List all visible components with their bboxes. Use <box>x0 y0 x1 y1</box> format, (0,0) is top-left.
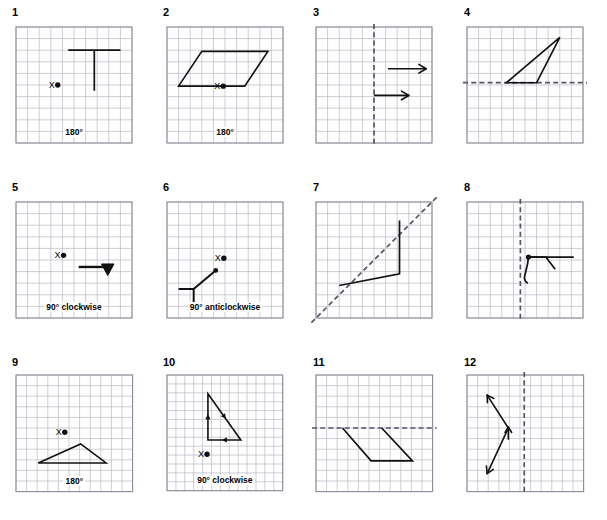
centre-of-rotation-label: X <box>49 81 55 90</box>
panel-number: 7 <box>313 181 319 193</box>
transformation-caption: 90° clockwise <box>195 475 254 485</box>
panel-number: 9 <box>12 356 18 368</box>
grid-lines <box>16 27 132 143</box>
centre-of-rotation-label: X <box>215 254 221 263</box>
grid-11 <box>316 375 433 492</box>
grid-6 <box>167 202 283 318</box>
worksheet-sheet: 1X180°2X180°345X90° clockwise6X90° antic… <box>0 0 607 520</box>
grid-lines <box>16 202 132 318</box>
grid-7 <box>316 202 432 318</box>
panel-number: 12 <box>464 356 476 368</box>
grid-10 <box>167 375 283 491</box>
transformation-caption: 180° <box>214 127 236 137</box>
transformation-caption: 180° <box>64 476 86 486</box>
transformation-caption: 90° clockwise <box>44 302 103 312</box>
grid-5 <box>16 202 132 318</box>
panel-number: 11 <box>313 356 325 368</box>
panel-number: 1 <box>12 6 18 18</box>
grid-8 <box>467 202 583 318</box>
panel-number: 4 <box>464 6 470 18</box>
panel-number: 10 <box>163 356 175 368</box>
panel-number: 5 <box>12 181 18 193</box>
grid-lines <box>167 375 283 491</box>
transformation-caption: 90° anticlockwise <box>188 302 263 312</box>
grid-lines <box>467 202 583 318</box>
grid-lines <box>316 375 433 492</box>
grid-2 <box>167 27 283 143</box>
grid-1 <box>16 27 132 143</box>
panel-number: 3 <box>313 6 319 18</box>
panel-number: 6 <box>163 181 169 193</box>
centre-of-rotation-label: X <box>198 450 204 459</box>
grid-lines <box>467 27 583 143</box>
grid-lines <box>316 202 432 318</box>
panel-number: 2 <box>163 6 169 18</box>
grid-12 <box>467 375 584 492</box>
grid-4 <box>467 27 583 143</box>
centre-of-rotation-label: X <box>214 82 220 91</box>
panel-number: 8 <box>464 181 470 193</box>
grid-9 <box>16 375 133 492</box>
grid-3 <box>316 27 432 143</box>
grid-lines <box>467 375 584 492</box>
transformation-caption: 180° <box>63 127 85 137</box>
centre-of-rotation-label: X <box>55 251 61 260</box>
grid-lines <box>16 375 133 492</box>
centre-of-rotation-label: X <box>56 428 62 437</box>
